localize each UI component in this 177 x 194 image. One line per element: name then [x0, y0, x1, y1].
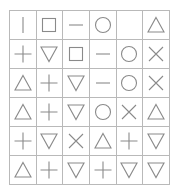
triangle-up-icon [92, 130, 114, 152]
cross-icon [118, 101, 140, 123]
grid-cell-r6-c4 [90, 156, 117, 185]
grid-cell-r3-c5 [117, 69, 144, 98]
triangle-down-icon [145, 130, 167, 152]
grid-cell-r4-c6 [143, 98, 170, 127]
triangle-down-icon [118, 159, 140, 181]
plus-icon [12, 130, 34, 152]
cross-icon [145, 72, 167, 94]
dash-icon [65, 14, 87, 36]
grid-cell-r5-c4 [90, 127, 117, 156]
triangle-up-icon [12, 101, 34, 123]
grid-cell-r3-c3 [63, 69, 90, 98]
plus-icon [118, 130, 140, 152]
grid-cell-r1-c2 [37, 11, 64, 40]
cross-icon [145, 43, 167, 65]
grid-cell-r6-c3 [63, 156, 90, 185]
grid-cell-r6-c5 [117, 156, 144, 185]
grid-cell-r3-c1 [10, 69, 37, 98]
grid-cell-r6-c2 [37, 156, 64, 185]
triangle-down-icon [38, 43, 60, 65]
grid-cell-r1-c4 [90, 11, 117, 40]
grid-cell-r3-c2 [37, 69, 64, 98]
grid-cell-r4-c4 [90, 98, 117, 127]
grid-cell-r4-c1 [10, 98, 37, 127]
triangle-up-icon [12, 72, 34, 94]
grid-cell-r6-c6 [143, 156, 170, 185]
grid-cell-r2-c2 [37, 40, 64, 69]
grid-cell-r5-c5 [117, 127, 144, 156]
triangle-down-icon [65, 101, 87, 123]
grid-cell-r1-c5 [117, 11, 144, 40]
triangle-up-icon [12, 159, 34, 181]
plus-icon [38, 159, 60, 181]
grid-cell-r5-c3 [63, 127, 90, 156]
cross-icon [65, 130, 87, 152]
triangle-up-icon [145, 14, 167, 36]
grid-cell-r2-c4 [90, 40, 117, 69]
grid-cell-r3-c4 [90, 69, 117, 98]
dash-icon [92, 43, 114, 65]
grid-cell-r1-c1 [10, 11, 37, 40]
plus-icon [38, 72, 60, 94]
grid-cell-r5-c1 [10, 127, 37, 156]
plus-icon [12, 43, 34, 65]
grid-cell-r6-c1 [10, 156, 37, 185]
grid-cell-r1-c6 [143, 11, 170, 40]
plus-icon [92, 159, 114, 181]
plus-icon [38, 101, 60, 123]
triangle-up-icon [145, 101, 167, 123]
symbol-grid [9, 10, 170, 185]
vertical-line-icon [12, 14, 34, 36]
circle-icon [118, 43, 140, 65]
grid-cell-r1-c3 [63, 11, 90, 40]
triangle-down-icon [65, 159, 87, 181]
grid-cell-r5-c6 [143, 127, 170, 156]
triangle-down-icon [38, 130, 60, 152]
circle-icon [92, 14, 114, 36]
grid-cell-r2-c1 [10, 40, 37, 69]
grid-cell-r2-c5 [117, 40, 144, 69]
circle-icon [92, 101, 114, 123]
dash-icon [92, 72, 114, 94]
grid-cell-r5-c2 [37, 127, 64, 156]
triangle-down-icon [145, 159, 167, 181]
square-icon [38, 14, 60, 36]
grid-cell-r4-c2 [37, 98, 64, 127]
grid-cell-r2-c3 [63, 40, 90, 69]
square-icon [65, 43, 87, 65]
triangle-down-icon [65, 72, 87, 94]
circle-icon [118, 72, 140, 94]
grid-cell-r2-c6 [143, 40, 170, 69]
grid-cell-r4-c3 [63, 98, 90, 127]
grid-cell-r3-c6 [143, 69, 170, 98]
grid-cell-r4-c5 [117, 98, 144, 127]
